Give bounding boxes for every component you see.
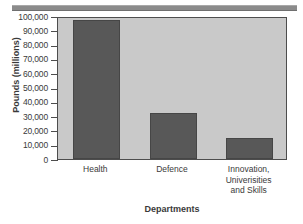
decorative-top-rule	[12, 5, 297, 11]
y-axis-tick-label: 60,000	[0, 69, 48, 79]
bar	[73, 20, 120, 159]
bar	[150, 113, 197, 159]
y-axis-tick-label: 20,000	[0, 126, 48, 136]
y-axis-tick-label: 100,000	[0, 12, 48, 22]
x-axis-category-label-line: Univerisities	[202, 175, 295, 186]
y-axis-tick-label: 70,000	[0, 54, 48, 64]
x-axis-title: Departments	[57, 204, 287, 214]
y-axis-tick-label: 80,000	[0, 40, 48, 50]
y-axis-tick	[51, 160, 58, 161]
plot-area	[57, 17, 287, 160]
x-axis-category-label: Innovation,Univerisitiesand Skills	[202, 164, 295, 196]
bar-chart-figure: Pounds (millions) 010,00020,00030,00040,…	[0, 0, 303, 224]
bar	[226, 138, 273, 159]
y-axis-tick-label: 40,000	[0, 97, 48, 107]
x-axis-category-label-line: and Skills	[202, 185, 295, 196]
y-axis-tick-label: 30,000	[0, 112, 48, 122]
y-axis-tick-label: 50,000	[0, 83, 48, 93]
y-axis-tick-label: 0	[0, 155, 48, 165]
y-axis-tick-label: 10,000	[0, 140, 48, 150]
y-axis-tick-label: 90,000	[0, 26, 48, 36]
x-axis-category-label-line: Innovation,	[202, 164, 295, 175]
